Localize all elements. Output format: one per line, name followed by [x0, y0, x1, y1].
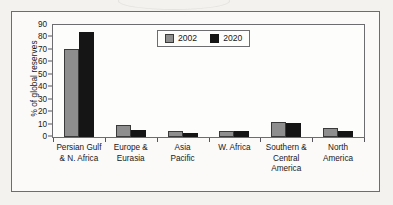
bar-2002	[116, 125, 131, 137]
bar-2002	[64, 49, 79, 137]
bar-2002	[271, 122, 286, 137]
legend-item: 2020	[210, 33, 242, 43]
bar-group	[312, 25, 364, 137]
x-tick-mark	[209, 138, 210, 142]
bar-group	[105, 25, 157, 137]
bar-2020	[286, 123, 301, 137]
bar-2020	[131, 130, 146, 137]
y-tick-label: 10	[12, 119, 52, 128]
y-tick-label: 60	[12, 57, 52, 66]
y-tick-label: 90	[12, 20, 52, 29]
x-tick-mark	[312, 138, 313, 142]
x-tick-mark	[53, 138, 54, 142]
y-tick-label: 20	[12, 107, 52, 116]
bar-group	[53, 25, 105, 137]
y-tick-label: 30	[12, 94, 52, 103]
legend-item: 2002	[165, 33, 197, 43]
x-axis-label: NorthAmerica	[312, 143, 364, 175]
bar-2002	[219, 131, 234, 137]
chart-legend: 20022020	[157, 30, 250, 47]
y-tick-label: 70	[12, 44, 52, 53]
y-tick-label: 0	[12, 132, 52, 141]
x-axis-label: Persian Gulf& N. Africa	[53, 143, 105, 175]
x-tick-mark	[260, 138, 261, 142]
bar-2020	[79, 32, 94, 137]
bar-2002	[168, 131, 183, 137]
bar-group	[260, 25, 312, 137]
x-axis-label: AsiaPacific	[157, 143, 209, 175]
bar-2002	[323, 128, 338, 137]
x-tick-mark	[105, 138, 106, 142]
chart-page-frame: % of global reserves 0102030405060708090…	[11, 11, 380, 192]
x-tick-mark	[157, 138, 158, 142]
bar-chart: % of global reserves 0102030405060708090…	[12, 12, 379, 191]
x-axis-ticks	[53, 138, 364, 142]
y-tick-label: 80	[12, 32, 52, 41]
x-axis-label: Europe &Eurasia	[105, 143, 157, 175]
x-axis-label: W. Africa	[208, 143, 260, 175]
bar-2020	[338, 131, 353, 137]
legend-swatch-2020-icon	[210, 34, 219, 43]
x-axis-label: Southern &CentralAmerica	[260, 143, 312, 175]
x-axis-labels: Persian Gulf& N. AfricaEurope &EurasiaAs…	[53, 143, 364, 175]
y-axis: 0102030405060708090	[12, 24, 52, 138]
legend-swatch-2002-icon	[165, 34, 174, 43]
bar-2020	[234, 131, 249, 137]
y-tick-label: 50	[12, 69, 52, 78]
scan-artifact-smudge	[118, 0, 230, 10]
legend-label: 2020	[223, 33, 242, 43]
bar-2020	[183, 133, 198, 137]
y-tick-label: 40	[12, 82, 52, 91]
x-tick-mark	[364, 138, 365, 142]
legend-label: 2002	[178, 33, 197, 43]
